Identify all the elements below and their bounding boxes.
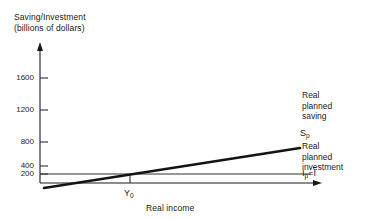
ip-subscript: p: [305, 172, 309, 179]
y-axis-title: Saving/Investment (billions of dollars): [14, 12, 86, 34]
investment-label-line1: Real: [302, 141, 343, 152]
investment-curve-symbol: Ip=I: [302, 168, 316, 178]
equilibrium-income-label: Y0: [124, 188, 134, 198]
x-axis-title: Real income: [146, 203, 194, 214]
annotation-real-planned-saving: Real planned saving: [302, 90, 332, 122]
saving-label-line1: Real: [302, 90, 332, 101]
y-axis-title-line1: Saving/Investment: [14, 12, 86, 23]
saving-curve-symbol: Sp: [300, 128, 310, 138]
y-axis-title-line2: (billions of dollars): [14, 23, 86, 34]
saving-label-line2: planned: [302, 101, 332, 112]
y-tick-label-200: 200: [4, 169, 34, 178]
ip-bar-symbol: I: [313, 168, 316, 178]
y-tick-label-1600: 1600: [4, 73, 34, 82]
investment-label-line2: planned: [302, 152, 343, 163]
saving-label-line3: saving: [302, 111, 332, 122]
y0-subscript: 0: [130, 192, 134, 199]
sp-subscript: p: [306, 132, 310, 139]
y-tick-label-1200: 1200: [4, 105, 34, 114]
y-tick-label-800: 800: [4, 137, 34, 146]
